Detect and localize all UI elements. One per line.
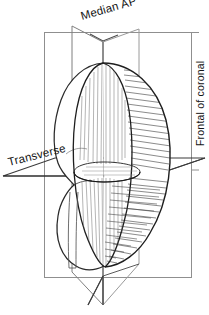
- median-plane-lower-edge-left: [88, 276, 103, 305]
- organ-body: [54, 63, 172, 270]
- median-plane-label: Median AP: [79, 0, 138, 22]
- anatomical-planes-figure: Median AP Transverse Frontal of coronal: [0, 0, 209, 315]
- median-plane-lower-vertex: [88, 264, 139, 305]
- diagram-canvas: Median AP Transverse Frontal of coronal: [0, 0, 209, 315]
- coronal-plane-label: Frontal of coronal: [194, 61, 206, 146]
